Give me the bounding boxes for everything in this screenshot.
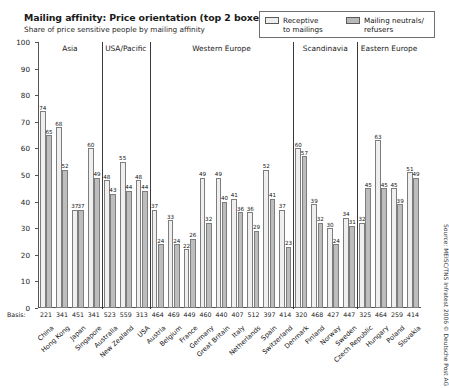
source-note: Source: MEISC/TNS Infratest 2006 © Deuts… <box>443 224 449 386</box>
source-note-box: Source: MEISC/TNS Infratest 2006 © Deuts… <box>433 190 445 380</box>
